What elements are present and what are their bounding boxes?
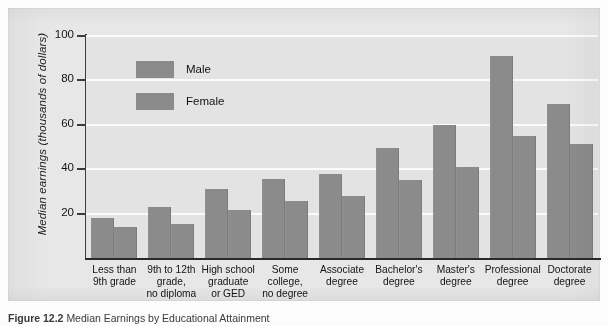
bar-male: [376, 148, 399, 258]
y-tick-label-80: 80: [40, 72, 74, 84]
legend-label-female: Female: [186, 95, 224, 107]
x-label-8: Doctoratedegree: [541, 264, 598, 288]
x-label-5: Bachelor'sdegree: [370, 264, 427, 288]
bar-female: [114, 227, 137, 258]
bar-group: [490, 36, 536, 258]
bar-male: [91, 218, 114, 258]
bar-female: [513, 136, 536, 258]
x-axis-spine: [85, 258, 601, 260]
legend-item-male: Male: [136, 56, 276, 82]
bar-male: [547, 104, 570, 258]
bar-female: [342, 196, 365, 258]
x-axis-labels: Less than9th grade9th to 12thgrade,no di…: [86, 264, 598, 310]
x-label-4: Associatedegree: [314, 264, 371, 288]
y-tick-label-100: 100: [40, 28, 74, 40]
x-label-7: Professionaldegree: [484, 264, 541, 288]
bar-male: [205, 189, 228, 258]
x-label-6: Master'sdegree: [427, 264, 484, 288]
legend-swatch-male: [136, 61, 174, 78]
bar-female: [456, 167, 479, 258]
figure-caption-number: Figure 12.2: [8, 312, 63, 324]
y-tick-label-40: 40: [40, 161, 74, 173]
bar-female: [228, 210, 251, 258]
figure-root: Median earnings (thousands of dollars) 2…: [0, 0, 608, 326]
y-tick-label-60: 60: [40, 117, 74, 129]
bar-group: [376, 36, 422, 258]
bar-male: [490, 56, 513, 258]
figure-caption: Figure 12.2 Median Earnings by Education…: [8, 312, 568, 324]
bar-female: [171, 224, 194, 258]
bar-female: [399, 180, 422, 258]
x-label-1: 9th to 12thgrade,no diploma: [143, 264, 200, 299]
bar-male: [319, 174, 342, 258]
bar-group: [91, 36, 137, 258]
bar-group: [319, 36, 365, 258]
chart-panel: Median earnings (thousands of dollars) 2…: [8, 8, 600, 301]
legend-label-male: Male: [186, 63, 211, 75]
bar-male: [262, 179, 285, 258]
legend-swatch-female: [136, 93, 174, 110]
legend-item-female: Female: [136, 88, 276, 114]
bar-female: [570, 144, 593, 258]
chart-legend: MaleFemale: [136, 56, 276, 120]
bar-group: [547, 36, 593, 258]
x-label-2: High schoolgraduateor GED: [200, 264, 257, 299]
x-label-3: Somecollege,no degree: [257, 264, 314, 299]
bar-female: [285, 201, 308, 258]
bar-male: [433, 125, 456, 258]
x-label-0: Less than9th grade: [86, 264, 143, 288]
y-tick-label-20: 20: [40, 206, 74, 218]
y-axis-title: Median earnings (thousands of dollars): [36, 4, 48, 264]
bar-group: [433, 36, 479, 258]
figure-caption-text: Median Earnings by Educational Attainmen…: [66, 312, 269, 324]
bar-male: [148, 207, 171, 258]
